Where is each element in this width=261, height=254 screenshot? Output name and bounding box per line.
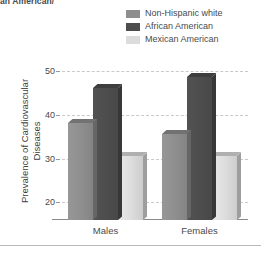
x-axis-label: Females <box>162 225 237 236</box>
bar-side-face <box>187 131 191 220</box>
legend-swatch-non-hispanic-white <box>126 10 140 18</box>
bar-side-face <box>93 120 97 220</box>
chart-legend: Non-Hispanic whiteAfrican AmericanMexica… <box>126 8 223 45</box>
legend-item-label: Mexican American <box>145 34 219 45</box>
y-axis-title: Prevalence of Cardiovascular Diseases <box>14 62 48 220</box>
bar-front-face <box>68 123 93 220</box>
y-tick-mark <box>56 71 60 72</box>
legend-swatch-african-american <box>126 23 140 31</box>
bar-group: Females <box>162 77 237 220</box>
legend-item[interactable]: African American <box>126 21 223 32</box>
y-tick-label: 20 <box>45 197 55 207</box>
bar-side-face <box>118 85 122 220</box>
y-tick-mark <box>56 202 60 203</box>
y-tick-label: 40 <box>45 110 55 120</box>
y-tick-label: 50 <box>45 66 55 76</box>
y-tick-label: 30 <box>45 154 55 164</box>
y-axis-title-line1: Prevalence of Cardiovascular <box>19 79 31 203</box>
bar-side-face <box>237 153 241 220</box>
bar[interactable] <box>162 134 187 220</box>
y-tick-mark <box>56 115 60 116</box>
clipped-caption: an American/ <box>0 0 54 4</box>
legend-item[interactable]: Mexican American <box>126 34 223 45</box>
bar[interactable] <box>68 123 93 220</box>
bar-front-face <box>162 134 187 220</box>
legend-item[interactable]: Non-Hispanic white <box>126 8 223 19</box>
plot-area: 20304050MalesFemales <box>62 62 248 220</box>
legend-swatch-mexican-american <box>126 36 140 44</box>
legend-item-label: African American <box>145 21 213 32</box>
bar-group: Males <box>68 88 143 220</box>
x-axis-label: Males <box>68 225 143 236</box>
bottom-divider <box>0 245 261 246</box>
legend-item-label: Non-Hispanic white <box>145 8 223 19</box>
bar-side-face <box>212 74 216 220</box>
gridline <box>62 71 248 72</box>
bar-side-face <box>143 153 147 220</box>
y-tick-mark <box>56 159 60 160</box>
y-axis-title-line2: Diseases <box>31 121 43 160</box>
